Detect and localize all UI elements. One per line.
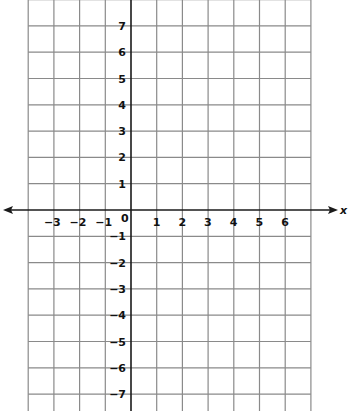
y-tick-label: 2 (118, 151, 126, 164)
y-tick-label: −7 (109, 388, 126, 401)
origin-label: 0 (121, 212, 129, 225)
y-tick-label: −2 (109, 257, 126, 270)
y-tick-label: −5 (109, 336, 126, 349)
x-tick-label: −3 (44, 216, 61, 229)
y-tick-label: 5 (118, 73, 126, 86)
y-tick-label: 6 (118, 46, 126, 59)
y-tick-label: −3 (109, 283, 126, 296)
y-tick-label: 4 (118, 99, 126, 112)
grid-lines (28, 0, 311, 411)
x-tick-label: 5 (256, 216, 264, 229)
x-tick-label: −2 (70, 216, 87, 229)
x-tick-labels: −3−2−1123456 (44, 216, 289, 229)
x-tick-label: 4 (230, 216, 238, 229)
x-tick-label: −1 (95, 216, 112, 229)
coordinate-plane: x 0 −3−2−1123456 7654321−1−2−3−4−5−6−7 (0, 0, 350, 411)
axes: x 0 (3, 0, 348, 411)
y-tick-label: −6 (109, 362, 126, 375)
x-tick-label: 3 (204, 216, 212, 229)
x-tick-label: 2 (178, 216, 186, 229)
y-tick-label: −1 (109, 230, 126, 243)
y-tick-label: 1 (118, 178, 126, 191)
y-tick-label: 3 (118, 125, 126, 138)
y-tick-label: −4 (109, 309, 126, 322)
y-tick-label: 7 (118, 20, 126, 33)
x-tick-label: 6 (281, 216, 289, 229)
x-tick-label: 1 (153, 216, 161, 229)
x-axis-label: x (339, 204, 348, 217)
